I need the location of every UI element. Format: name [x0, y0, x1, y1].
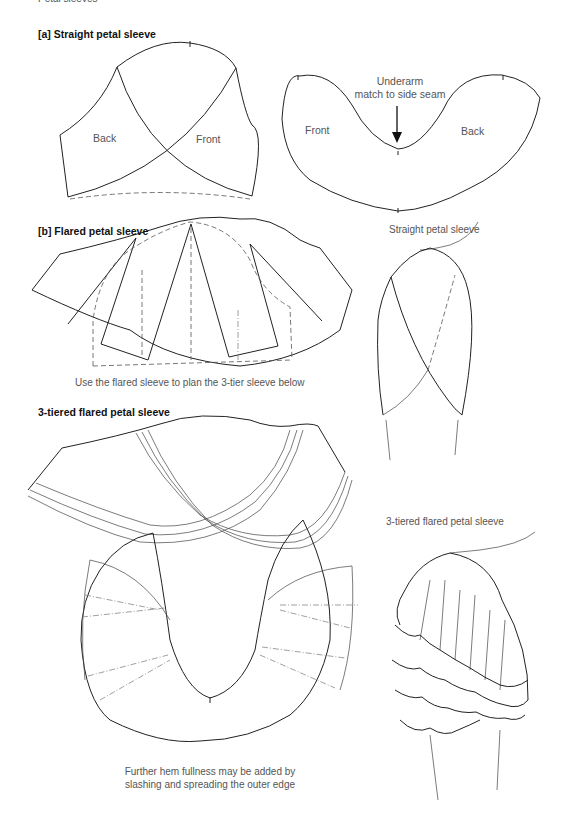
straight-illustration-caption: Straight petal sleeve — [389, 224, 480, 235]
label-back-right: Back — [461, 125, 484, 137]
tiered-illustration-caption: 3-tiered flared petal sleeve — [386, 516, 504, 527]
label-front-left: Front — [196, 133, 221, 145]
tiered-petal-illustration — [392, 532, 535, 800]
tiered-petal-band-pattern — [28, 416, 352, 549]
underarm-annotation-line2: match to side seam — [340, 88, 460, 100]
section-c-caption-line1: Further hem fullness may be added by — [100, 766, 320, 777]
tiered-petal-lower-pattern — [81, 520, 358, 742]
section-b-caption: Use the flared sleeve to plan the 3-tier… — [75, 377, 305, 388]
straight-petal-illustration — [378, 222, 478, 460]
label-back-left: Back — [93, 132, 116, 144]
flared-petal-pattern — [32, 217, 352, 366]
straight-petal-pattern-left — [60, 41, 259, 199]
label-front-right: Front — [305, 124, 330, 136]
section-b-title: [b] Flared petal sleeve — [38, 225, 148, 237]
section-c-title: 3-tiered flared petal sleeve — [38, 406, 170, 418]
underarm-annotation-line1: Underarm — [350, 75, 450, 87]
section-c-caption-line2: slashing and spreading the outer edge — [100, 779, 320, 790]
pattern-drawings — [0, 0, 573, 840]
